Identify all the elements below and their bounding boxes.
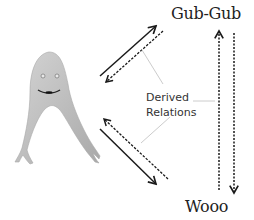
annotation-line-2: Relations — [146, 105, 197, 120]
arrow-derived-from-gubgub — [106, 31, 163, 82]
creature-eye-left — [41, 74, 45, 78]
creature-eye-right — [55, 74, 59, 78]
node-label-gubgub: Gub-Gub — [171, 4, 241, 23]
diagram-canvas: Gub-Gub Wooo Derived Relations — [0, 0, 254, 220]
annotation-line-1: Derived — [146, 90, 197, 105]
connector-upper — [142, 50, 163, 84]
connector-lower — [141, 117, 170, 143]
annotation-derived-relations: Derived Relations — [146, 90, 197, 120]
creature-image — [15, 52, 100, 164]
creature-body — [15, 52, 100, 164]
arrow-trained-to-gubgub — [100, 26, 156, 76]
node-label-wooo: Wooo — [185, 197, 228, 216]
